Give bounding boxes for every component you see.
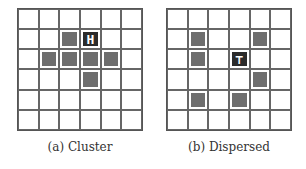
grid-cell — [18, 110, 39, 130]
grid-cell — [167, 90, 188, 110]
grid-cell — [39, 110, 60, 130]
grid-cell — [208, 110, 229, 130]
grid-cell — [167, 69, 188, 89]
grid-cell — [59, 90, 80, 110]
grid-cell — [229, 110, 250, 130]
occupied-cell — [250, 69, 271, 89]
grid-cell — [208, 49, 229, 69]
grid-cell — [167, 110, 188, 130]
grid-cell — [39, 69, 60, 89]
grid-cell — [101, 9, 122, 29]
grid-cell — [229, 69, 250, 89]
grid-cell — [121, 110, 142, 130]
agent-cell: H — [80, 29, 101, 49]
grid-cell — [188, 110, 209, 130]
grid-cell — [250, 49, 271, 69]
grid-cell — [229, 9, 250, 29]
grid-cell — [188, 69, 209, 89]
occupied-cell — [80, 49, 101, 69]
grid-cell — [121, 29, 142, 49]
cluster-grid: H — [17, 8, 143, 131]
grid-cell — [270, 90, 291, 110]
grid-cell — [270, 9, 291, 29]
grid-cell — [208, 9, 229, 29]
occupied-cell — [188, 29, 209, 49]
grid-cell — [250, 9, 271, 29]
grid-cell — [101, 110, 122, 130]
grid-cell — [39, 9, 60, 29]
grid-cell — [270, 49, 291, 69]
grid-cell — [101, 29, 122, 49]
grid-cell — [208, 29, 229, 49]
agent-icon: ⊤ — [235, 53, 243, 66]
grid-cell — [121, 90, 142, 110]
grid-cell — [80, 9, 101, 29]
grid-cell — [80, 110, 101, 130]
occupied-cell — [59, 29, 80, 49]
grid-cell — [270, 110, 291, 130]
occupied-cell — [250, 29, 271, 49]
grid-cell — [39, 90, 60, 110]
grid-cell — [18, 9, 39, 29]
caption-cluster: (a) Cluster — [17, 140, 143, 154]
grid-cell — [167, 9, 188, 29]
occupied-cell — [101, 49, 122, 69]
grid-cell — [167, 29, 188, 49]
grid-cell — [80, 90, 101, 110]
grid-cell — [270, 69, 291, 89]
grid-cell — [59, 9, 80, 29]
grid-cell — [121, 9, 142, 29]
grid-cell — [121, 49, 142, 69]
grid-cell — [59, 110, 80, 130]
grid-cell — [250, 90, 271, 110]
grid-cell — [18, 49, 39, 69]
dispersed-grid: ⊤ — [166, 8, 292, 131]
grid-cell — [208, 90, 229, 110]
grid-cell — [270, 29, 291, 49]
agent-icon: H — [86, 33, 94, 46]
grid-cell — [208, 69, 229, 89]
occupied-cell — [80, 69, 101, 89]
grid-cell — [250, 110, 271, 130]
grid-cell — [101, 69, 122, 89]
agent-cell: ⊤ — [229, 49, 250, 69]
grid-cell — [59, 69, 80, 89]
occupied-cell — [39, 49, 60, 69]
grid-cell — [229, 29, 250, 49]
occupied-cell — [188, 90, 209, 110]
grid-cell — [18, 29, 39, 49]
grid-cell — [39, 29, 60, 49]
grid-cell — [188, 9, 209, 29]
occupied-cell — [59, 49, 80, 69]
grid-cell — [18, 69, 39, 89]
grid-cell — [167, 49, 188, 69]
caption-dispersed: (b) Dispersed — [166, 140, 292, 154]
occupied-cell — [188, 49, 209, 69]
grid-cell — [18, 90, 39, 110]
grid-cell — [121, 69, 142, 89]
grid-cell — [101, 90, 122, 110]
occupied-cell — [229, 90, 250, 110]
